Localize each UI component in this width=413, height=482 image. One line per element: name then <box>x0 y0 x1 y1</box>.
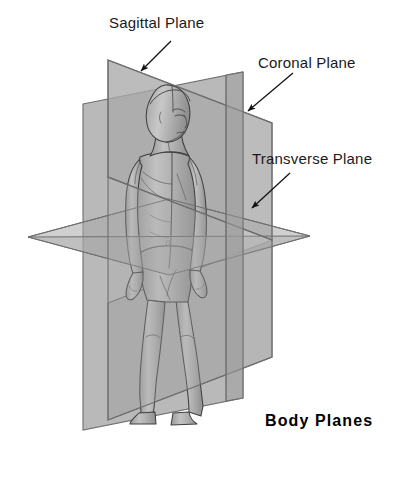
coronal-plane-front <box>226 72 243 401</box>
label-coronal-plane: Coronal Plane <box>258 54 356 71</box>
diagram-canvas <box>0 0 413 482</box>
label-sagittal-plane: Sagittal Plane <box>109 14 204 31</box>
label-transverse-plane: Transverse Plane <box>252 150 372 167</box>
sagittal-arrow <box>141 41 171 71</box>
figure-title: Body Planes <box>265 412 373 430</box>
coronal-arrow <box>248 73 293 111</box>
body-planes-diagram: Sagittal Plane Coronal Plane Transverse … <box>0 0 413 482</box>
